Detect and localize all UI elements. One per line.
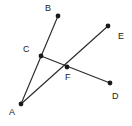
- point-c-dot: [39, 54, 44, 59]
- point-f-dot: [65, 65, 70, 70]
- point-label-c: C: [23, 45, 30, 54]
- segment-cd: [41, 56, 110, 83]
- point-label-e: E: [118, 32, 124, 41]
- point-b-dot: [56, 14, 61, 19]
- vertex-dot-group: [19, 14, 113, 107]
- point-d-dot: [108, 81, 113, 86]
- point-a-dot: [19, 102, 24, 107]
- point-label-b: B: [45, 4, 51, 13]
- point-label-d: D: [112, 92, 119, 101]
- figure-canvas: [0, 0, 132, 126]
- segment-group: [21, 16, 110, 104]
- point-label-a: A: [9, 108, 15, 117]
- point-label-f: F: [65, 73, 71, 82]
- geometry-figure: A B C D E F: [0, 0, 132, 126]
- point-e-dot: [106, 24, 111, 29]
